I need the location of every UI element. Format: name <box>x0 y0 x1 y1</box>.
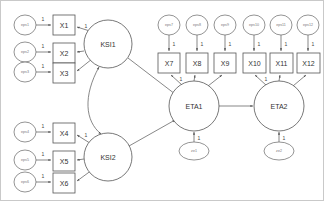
indicator-label-X1: X1 <box>60 22 69 29</box>
indicator-label-X9: X9 <box>221 60 230 67</box>
error-paths-eta2-block <box>254 35 308 51</box>
indicator-node-X12[interactable]: X12 <box>297 53 320 73</box>
error-label-e1: eps1 <box>21 23 29 27</box>
path-ETA1-to-X9 <box>208 75 222 86</box>
error-node-e11[interactable]: eps11 <box>270 15 292 35</box>
disturbance-coefficient-labels: 1 1 <box>198 135 286 141</box>
coef-e2: 1 <box>42 43 45 49</box>
error-node-e4[interactable]: eps4 <box>14 122 36 142</box>
indicator-label-X7: X7 <box>165 60 174 67</box>
coef-z1: 1 <box>198 135 201 141</box>
path-KSI2-to-X5 <box>77 159 84 160</box>
indicator-node-X11[interactable]: X11 <box>270 53 293 73</box>
coef-e12: 1 <box>312 41 315 47</box>
error-node-e1[interactable]: eps1 <box>14 15 36 35</box>
latent-node-ETA2[interactable]: ETA2 <box>254 81 304 131</box>
error-label-e2: eps2 <box>21 50 29 54</box>
disturbance-paths <box>194 132 279 142</box>
error-node-e9[interactable]: eps9 <box>214 15 236 35</box>
error-node-e7[interactable]: eps7 <box>158 15 180 35</box>
coef-loading-X4: 1 <box>85 132 88 138</box>
error-node-e8[interactable]: eps8 <box>186 15 208 35</box>
coef-e1: 1 <box>42 16 45 22</box>
diagram-canvas: eps1 eps2 eps3 eps4 eps5 eps6 <box>0 0 324 201</box>
error-node-e10[interactable]: eps10 <box>243 15 265 35</box>
latent-label-ETA2: ETA2 <box>271 103 288 110</box>
coef-loading-X7: 1 <box>180 76 183 82</box>
latent-label-KSI1: KSI1 <box>100 41 115 48</box>
coef-loading-X1: 1 <box>85 23 88 29</box>
error-label-e3: eps3 <box>21 70 29 74</box>
sem-path-diagram: eps1 eps2 eps3 eps4 eps5 eps6 <box>1 1 324 201</box>
error-label-e12: eps12 <box>303 23 313 27</box>
coef-z2: 1 <box>283 135 286 141</box>
indicator-node-X3[interactable]: X3 <box>53 63 75 83</box>
path-ETA2-to-X12 <box>293 75 306 86</box>
coef-e9: 1 <box>229 41 232 47</box>
path-ETA2-to-X11 <box>279 75 280 81</box>
error-label-e6: eps6 <box>21 180 29 184</box>
indicator-node-X9[interactable]: X9 <box>214 53 236 73</box>
indicator-node-X6[interactable]: X6 <box>53 173 75 193</box>
error-label-e9: eps9 <box>221 23 229 27</box>
indicator-node-X7[interactable]: X7 <box>158 53 180 73</box>
error-label-e10: eps10 <box>249 23 259 27</box>
indicator-node-X1[interactable]: X1 <box>53 15 75 35</box>
path-KSI1-to-X2 <box>77 51 84 52</box>
path-KSI2-to-ETA1 <box>129 120 175 146</box>
indicator-label-X11: X11 <box>276 60 288 67</box>
latent-node-ETA1[interactable]: ETA1 <box>169 81 219 131</box>
error-node-e5[interactable]: eps5 <box>14 150 36 170</box>
indicator-node-X2[interactable]: X2 <box>53 43 75 63</box>
path-ETA1-to-X8 <box>194 75 195 81</box>
latent-label-ETA1: ETA1 <box>186 103 203 110</box>
indicator-label-X2: X2 <box>60 50 69 57</box>
coef-e5: 1 <box>42 151 45 157</box>
coef-e8: 1 <box>201 41 204 47</box>
disturbance-node-z1[interactable]: ze1 <box>179 142 209 160</box>
coef-e3: 1 <box>42 63 45 69</box>
disturbance-label-z2: ze2 <box>276 149 282 153</box>
error-label-e11: eps11 <box>276 23 286 27</box>
indicator-label-X5: X5 <box>60 158 69 165</box>
indicator-label-X4: X4 <box>60 130 69 137</box>
coef-loading-X10: 1 <box>265 76 268 82</box>
error-label-e8: eps8 <box>193 23 201 27</box>
latent-node-KSI2[interactable]: KSI2 <box>84 133 132 181</box>
path-KSI1-to-X3 <box>77 59 92 71</box>
coef-e6: 1 <box>42 173 45 179</box>
error-node-e6[interactable]: eps6 <box>14 172 36 192</box>
error-paths-eta1-block <box>169 35 225 51</box>
error-label-e5: eps5 <box>21 158 29 162</box>
indicator-node-X5[interactable]: X5 <box>53 151 75 171</box>
error-label-e7: eps7 <box>165 23 173 27</box>
error-node-e2[interactable]: eps2 <box>14 42 36 62</box>
indicator-label-X12: X12 <box>302 60 315 67</box>
disturbance-nodes: ze1 ze2 <box>179 142 294 160</box>
coef-e11: 1 <box>285 41 288 47</box>
error-node-e12[interactable]: eps12 <box>297 15 319 35</box>
indicator-node-X8[interactable]: X8 <box>186 53 208 73</box>
indicator-label-X8: X8 <box>193 60 202 67</box>
indicator-node-X10[interactable]: X10 <box>243 53 266 73</box>
error-label-e4: eps4 <box>21 130 29 134</box>
disturbance-node-z2[interactable]: ze2 <box>264 142 294 160</box>
coef-e10: 1 <box>258 41 261 47</box>
indicator-label-X3: X3 <box>60 70 69 77</box>
covariance-ksi1-ksi2 <box>88 67 101 134</box>
indicator-label-X10: X10 <box>248 60 261 67</box>
coef-e7: 1 <box>173 41 176 47</box>
latent-label-KSI2: KSI2 <box>100 154 115 161</box>
indicator-label-X6: X6 <box>60 180 69 187</box>
indicator-node-X4[interactable]: X4 <box>53 123 75 143</box>
path-KSI1-KSI2-covariance <box>88 67 101 134</box>
disturbance-label-z1: ze1 <box>191 149 197 153</box>
error-node-e3[interactable]: eps3 <box>14 62 36 82</box>
latent-node-KSI1[interactable]: KSI1 <box>84 20 132 68</box>
coef-e4: 1 <box>42 123 45 129</box>
